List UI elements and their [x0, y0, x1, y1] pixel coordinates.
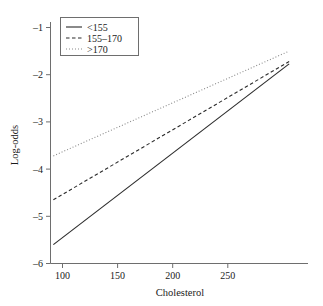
line-chart: –1 –2 –3 –4 –5 –6 100 150 200 250 Choles…: [0, 0, 323, 306]
x-tick-label: 250: [220, 270, 235, 281]
y-tick-label: –3: [32, 116, 43, 127]
x-tick-label: 100: [55, 270, 70, 281]
legend-label-155-170: 155–170: [87, 33, 122, 44]
x-tick-label: 150: [110, 270, 125, 281]
series-line-gt170: [53, 51, 289, 156]
chart-figure: –1 –2 –3 –4 –5 –6 100 150 200 250 Choles…: [0, 0, 323, 306]
y-tick-label: –2: [32, 69, 43, 80]
legend: <155 155–170 >170: [61, 18, 139, 56]
series-line-155-170: [53, 61, 289, 199]
y-tick-label: –4: [32, 164, 43, 175]
y-axis-title: Log-odds: [9, 125, 20, 165]
x-axis-title: Cholesterol: [156, 287, 204, 298]
x-tick-label: 200: [165, 270, 180, 281]
legend-label-gt170: >170: [87, 44, 108, 55]
y-tick-label: –5: [32, 211, 43, 222]
y-tick-label: –6: [32, 258, 43, 269]
y-tick-label: –1: [32, 22, 43, 33]
series-line-lt155: [53, 64, 289, 245]
legend-label-lt155: <155: [87, 22, 108, 33]
